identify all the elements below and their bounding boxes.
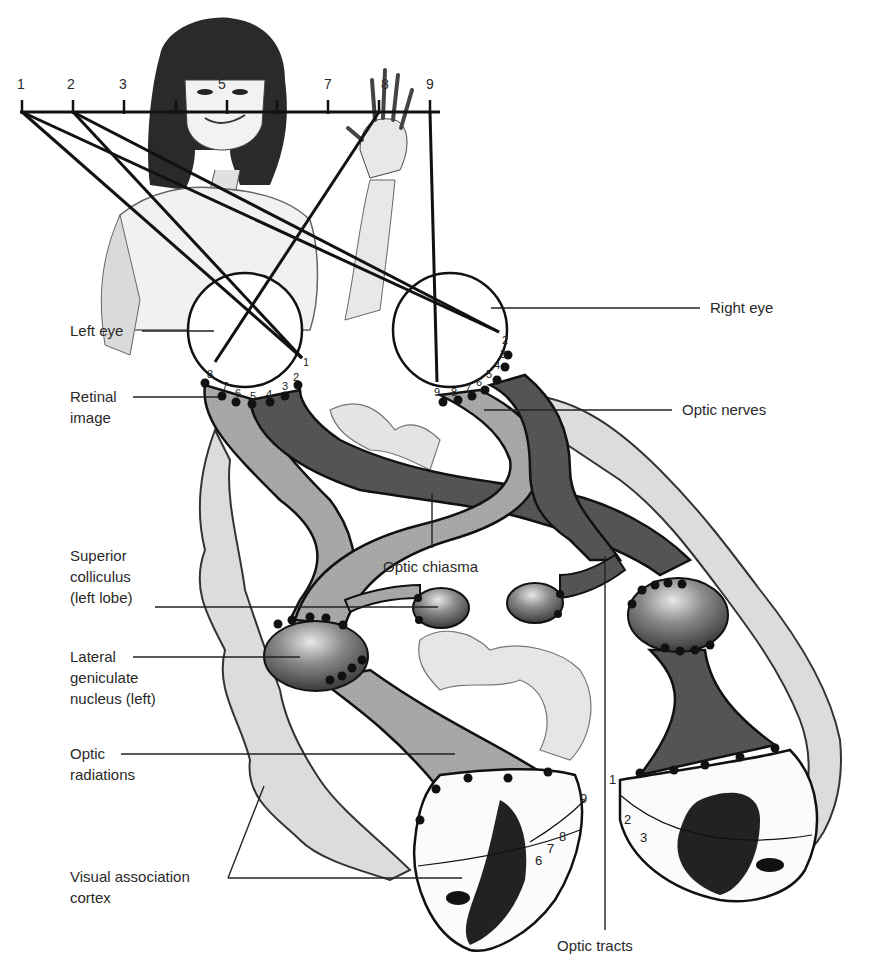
- superior-colliculus-right: [507, 583, 563, 623]
- right-cortex-num-2: 2: [624, 812, 631, 827]
- label-lateral-geniculate-nucleus: Lateral geniculate nucleus (left): [70, 646, 156, 709]
- right-retina-num-9: 9: [434, 386, 440, 398]
- right-retina-num-7: 7: [465, 382, 471, 394]
- ruler-number-2: 2: [67, 76, 75, 92]
- ruler-number-9: 9: [426, 76, 434, 92]
- left-retina-num-8: 8: [207, 368, 213, 380]
- right-retina-num-4: 4: [494, 359, 500, 371]
- lgn-left: [264, 621, 368, 691]
- left-cortex-num-8: 8: [559, 829, 566, 844]
- right-retina-num-5: 5: [486, 368, 492, 380]
- right-retina-num-2: 2: [502, 334, 508, 346]
- ruler-number-5: 5: [218, 76, 226, 92]
- left-retina-num-4: 4: [266, 388, 272, 400]
- ruler-number-8: 8: [381, 76, 389, 92]
- label-optic-chiasma: Optic chiasma: [383, 556, 478, 577]
- left-eye-circle: [188, 273, 302, 387]
- right-cortex-num-1: 1: [609, 772, 616, 787]
- left-retina-num-2: 2: [293, 371, 299, 383]
- label-optic-radiations: Optic radiations: [70, 743, 135, 785]
- left-retina-num-3: 3: [282, 380, 288, 392]
- left-retina-num-5: 5: [250, 390, 256, 402]
- label-left-eye: Left eye: [70, 320, 123, 341]
- ruler-number-6: 6: [274, 76, 282, 92]
- right-retina-num-3: 3: [500, 348, 506, 360]
- ruler-number-1: 1: [17, 76, 25, 92]
- label-visual-association-cortex: Visual association cortex: [70, 866, 190, 908]
- ruler-number-3: 3: [119, 76, 127, 92]
- label-superior-colliculus: Superior colliculus (left lobe): [70, 545, 133, 608]
- right-retina-num-8: 8: [451, 386, 457, 398]
- left-cortex-num-7: 7: [547, 841, 554, 856]
- left-retina-num-7: 7: [222, 380, 228, 392]
- ruler-number-7: 7: [324, 76, 332, 92]
- left-retina-num-6: 6: [235, 387, 241, 399]
- right-retina-num-6: 6: [476, 376, 482, 388]
- label-optic-nerves: Optic nerves: [682, 399, 766, 420]
- label-retinal-image: Retinal image: [70, 386, 117, 428]
- left-cortex-num-6: 6: [535, 853, 542, 868]
- left-cortex-num-9: 9: [580, 791, 587, 806]
- label-optic-tracts: Optic tracts: [557, 935, 633, 956]
- ruler-number-4: 4: [172, 76, 180, 92]
- left-retina-num-1: 1: [303, 356, 309, 368]
- visual-pathway-illustration: [0, 0, 873, 979]
- label-right-eye: Right eye: [710, 297, 773, 318]
- right-cortex-num-3: 3: [640, 830, 647, 845]
